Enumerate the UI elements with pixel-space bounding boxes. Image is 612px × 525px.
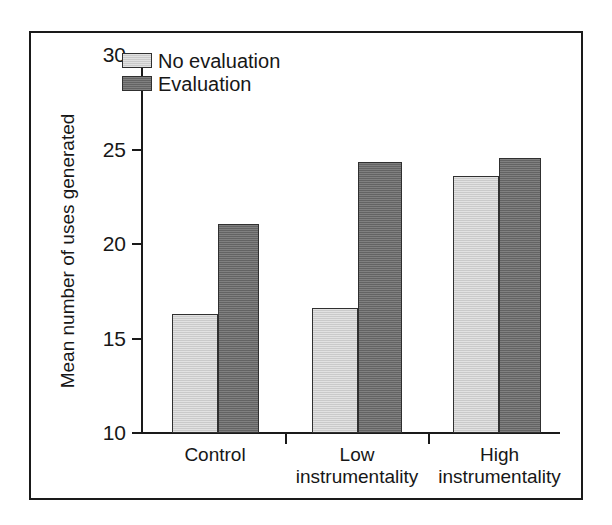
bar-low-evaluation	[358, 162, 402, 433]
y-tick-mark-20	[132, 243, 141, 245]
y-axis-title: Mean number of uses generated	[57, 86, 79, 416]
y-tick-mark-25	[132, 149, 141, 151]
y-tick-label-10: 10	[66, 422, 126, 443]
x-label-control: Control	[150, 444, 280, 466]
y-axis-line	[141, 54, 143, 434]
x-label-high-line2: instrumentality	[428, 466, 571, 488]
bar-low-no-evaluation	[312, 308, 358, 433]
x-label-low: Low instrumentality	[287, 444, 427, 488]
y-tick-mark-10	[132, 432, 141, 434]
x-label-high-line1: High	[428, 444, 571, 466]
legend-label-no-evaluation: No evaluation	[158, 51, 280, 71]
x-tick-mark-1	[285, 434, 287, 444]
bar-control-no-evaluation	[172, 314, 218, 433]
y-tick-mark-15	[132, 338, 141, 340]
x-tick-mark-2	[428, 434, 430, 444]
legend-label-evaluation: Evaluation	[158, 74, 251, 94]
legend-item-evaluation: Evaluation	[122, 73, 332, 94]
x-label-low-line1: Low	[287, 444, 427, 466]
bar-control-evaluation	[218, 224, 259, 433]
legend-swatch-no-evaluation	[122, 53, 152, 68]
y-tick-label-30: 30	[66, 44, 126, 65]
bar-high-evaluation	[499, 158, 541, 433]
legend-item-no-evaluation: No evaluation	[122, 50, 332, 71]
x-label-high: High instrumentality	[428, 444, 571, 488]
legend-swatch-evaluation	[122, 76, 152, 91]
bar-high-no-evaluation	[453, 176, 499, 433]
figure-root: 30 25 20 15 10 Mean number of uses gener…	[0, 0, 612, 525]
x-label-control-line1: Control	[150, 444, 280, 466]
legend: No evaluation Evaluation	[122, 50, 332, 96]
x-label-low-line2: instrumentality	[287, 466, 427, 488]
